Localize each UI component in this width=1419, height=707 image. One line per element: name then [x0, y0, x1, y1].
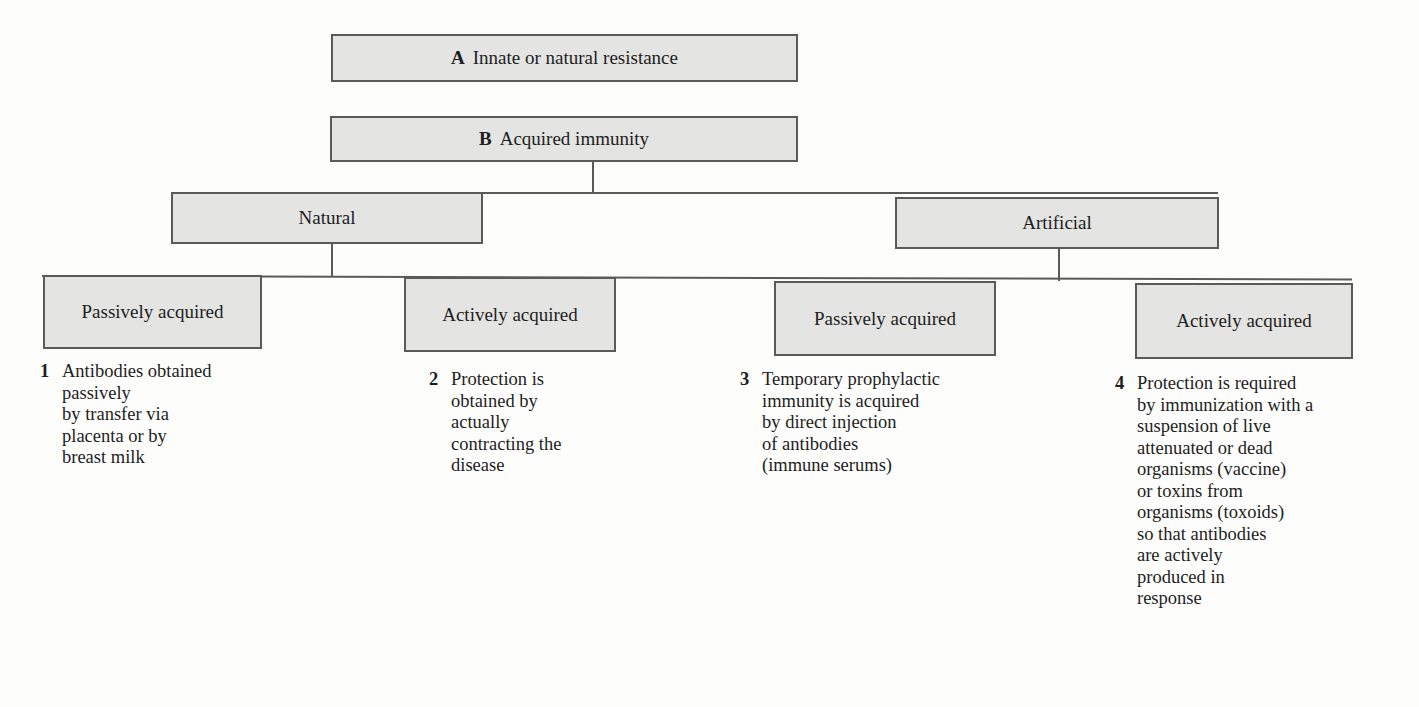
- description-4: 4 Protection is required by immunization…: [1115, 373, 1313, 610]
- leaf-natural-active: Actively acquired: [404, 277, 616, 352]
- node-innate-resistance: A Innate or natural resistance: [331, 34, 798, 82]
- node-artificial: Artificial: [895, 197, 1219, 249]
- description-1-number: 1: [40, 361, 62, 469]
- leaf-2-label: Actively acquired: [442, 304, 578, 326]
- connector-natural-down: [331, 243, 333, 277]
- description-2-text: Protection is obtained by actually contr…: [451, 369, 561, 477]
- leaf-3-label: Passively acquired: [814, 308, 956, 330]
- node-a-letter: A: [451, 47, 465, 69]
- description-4-text: Protection is required by immunization w…: [1137, 373, 1313, 610]
- leaf-natural-passive: Passively acquired: [43, 275, 262, 349]
- leaf-artificial-passive: Passively acquired: [774, 281, 996, 356]
- connector-artificial-down: [1058, 248, 1060, 281]
- description-3-text: Temporary prophylactic immunity is acqui…: [762, 369, 940, 477]
- description-2: 2 Protection is obtained by actually con…: [429, 369, 561, 477]
- node-b-label: Acquired immunity: [500, 128, 649, 150]
- connector-b-down: [592, 160, 594, 194]
- node-a-label: Innate or natural resistance: [473, 47, 678, 69]
- node-b-letter: B: [479, 128, 492, 150]
- node-acquired-immunity: B Acquired immunity: [330, 116, 798, 162]
- node-natural-label: Natural: [299, 207, 356, 229]
- leaf-1-label: Passively acquired: [82, 301, 224, 323]
- description-1: 1 Antibodies obtained passively by trans…: [40, 361, 212, 469]
- description-4-number: 4: [1115, 373, 1137, 610]
- leaf-artificial-active: Actively acquired: [1135, 283, 1353, 359]
- description-3: 3 Temporary prophylactic immunity is acq…: [740, 369, 940, 477]
- leaf-4-label: Actively acquired: [1176, 310, 1312, 332]
- description-1-text: Antibodies obtained passively by transfe…: [62, 361, 212, 469]
- description-3-number: 3: [740, 369, 762, 477]
- node-artificial-label: Artificial: [1022, 212, 1092, 234]
- node-natural: Natural: [171, 192, 483, 244]
- description-2-number: 2: [429, 369, 451, 477]
